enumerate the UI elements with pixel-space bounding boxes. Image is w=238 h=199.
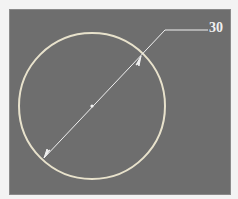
diameter-dimension[interactable]	[44, 30, 208, 158]
sketch-drawing: 30	[0, 0, 238, 199]
arrowhead-bottom-icon	[44, 149, 50, 158]
dimension-value[interactable]: 30	[209, 20, 223, 35]
